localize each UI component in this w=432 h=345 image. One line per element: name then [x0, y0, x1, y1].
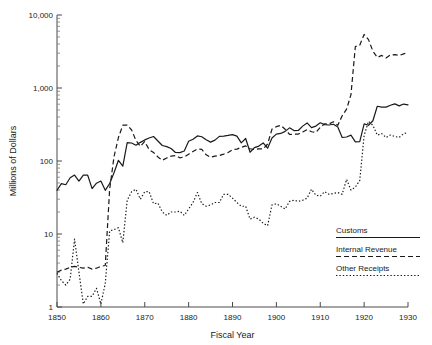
x-tick-label: 1900 [267, 313, 285, 322]
y-tick-label: 10,000 [29, 11, 54, 20]
x-tick-label: 1870 [136, 313, 154, 322]
x-axis-title: Fiscal Year [210, 330, 254, 340]
y-axis-title: Millions of Dollars [8, 125, 18, 196]
x-tick-label: 1890 [224, 313, 242, 322]
x-tick-label: 1880 [180, 313, 198, 322]
y-tick-label: 1 [49, 303, 54, 312]
x-tick-label: 1930 [399, 313, 417, 322]
series-line-customs [57, 104, 408, 190]
x-tick-label: 1920 [355, 313, 373, 322]
x-tick-label: 1860 [92, 313, 110, 322]
chart-legend: CustomsInternal RevenueOther Receipts [336, 226, 420, 276]
chart-canvas: 1101001,00010,000 1850186018701880189019… [0, 0, 432, 345]
y-axis: 1101001,00010,000 [29, 11, 62, 312]
legend-label-solid: Customs [336, 226, 368, 235]
y-axis-tick-labels: 1101001,00010,000 [29, 11, 54, 312]
legend-label-dashed: Internal Revenue [336, 245, 397, 254]
x-axis-major-ticks [57, 302, 408, 307]
series-line-other-receipts [57, 121, 408, 304]
chart-figure: 1101001,00010,000 1850186018701880189019… [0, 0, 432, 345]
y-tick-label: 1,000 [33, 84, 54, 93]
x-tick-label: 1850 [48, 313, 66, 322]
x-axis-tick-labels: 185018601870188018901900191019201930 [48, 313, 417, 322]
y-tick-label: 100 [40, 157, 54, 166]
y-tick-label: 10 [44, 230, 53, 239]
series-line-internal-revenue [57, 34, 408, 272]
x-tick-label: 1910 [311, 313, 329, 322]
legend-label-dotted: Other Receipts [336, 264, 389, 273]
x-axis: 185018601870188018901900191019201930 [48, 302, 417, 322]
